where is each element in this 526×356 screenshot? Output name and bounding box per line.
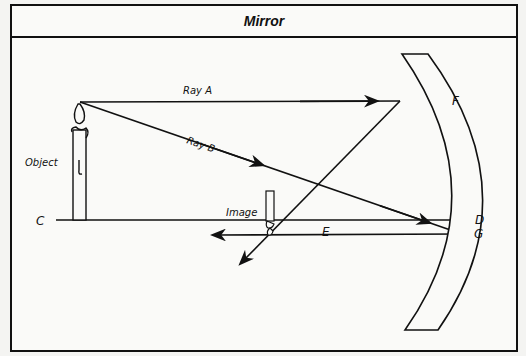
label-e: E xyxy=(322,225,330,239)
ray-diagram: Ray A Ray B Object Image C D E F G xyxy=(0,0,526,356)
label-f: F xyxy=(452,94,460,108)
candle-image xyxy=(266,191,274,235)
label-c: C xyxy=(36,214,45,228)
label-g: G xyxy=(474,227,483,241)
concave-mirror xyxy=(402,54,483,330)
reflected-ray-b xyxy=(218,234,462,235)
label-object: Object xyxy=(25,157,59,168)
label-image: Image xyxy=(226,207,257,218)
candle-object xyxy=(72,104,89,220)
label-d: D xyxy=(475,213,484,227)
label-ray-a: Ray A xyxy=(183,85,212,96)
label-ray-b: Ray B xyxy=(185,134,216,154)
